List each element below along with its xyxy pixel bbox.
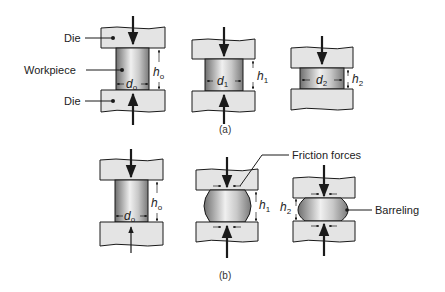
barreled-workpiece (204, 190, 251, 222)
label-workpiece: Workpiece (24, 64, 76, 76)
label-h2-b: h2 (280, 200, 292, 216)
label-h0: ho (153, 65, 165, 81)
barreled-workpiece-2 (298, 198, 348, 221)
stage-b3 (293, 165, 372, 256)
caption-b: (b) (219, 270, 231, 281)
label-die-top: Die (64, 32, 81, 44)
stage-b2 (196, 155, 289, 258)
upsetting-diagram: Die Workpiece Die ho do h1 d1 h2 d2 (a) (0, 0, 445, 292)
label-die-bottom: Die (64, 95, 81, 107)
caption-a: (a) (219, 124, 231, 135)
label-h0-b: ho (151, 196, 163, 212)
label-friction-forces: Friction forces (292, 149, 362, 161)
label-h2: h2 (352, 72, 364, 88)
label-barreling: Barreling (375, 204, 419, 216)
label-h1: h1 (257, 69, 269, 85)
label-h1-b: h1 (259, 198, 271, 214)
